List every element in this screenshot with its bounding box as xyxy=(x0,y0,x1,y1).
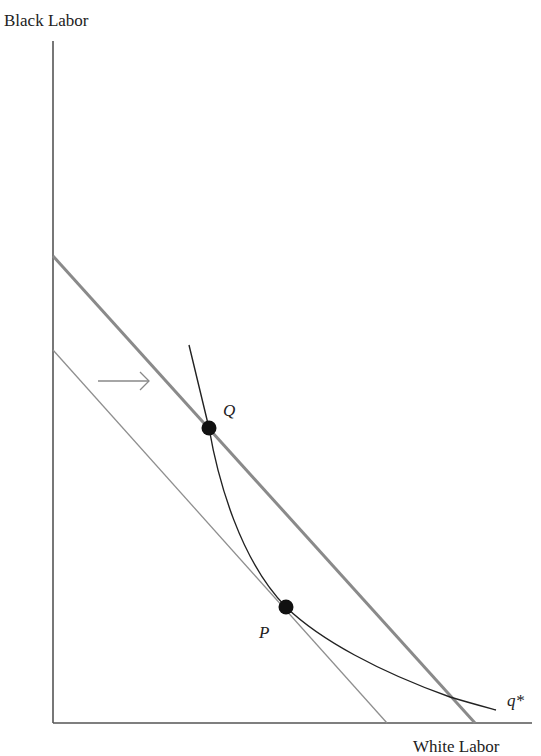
isoquant-curve xyxy=(189,345,496,710)
point-q xyxy=(202,421,217,436)
isoquant-label: q* xyxy=(507,691,525,710)
point-p-label: P xyxy=(258,623,269,642)
original-isocost-line xyxy=(53,350,387,723)
point-q-label: Q xyxy=(223,401,235,420)
y-axis-label: Black Labor xyxy=(4,11,89,30)
isoquant-diagram: Black Labor White Labor Q P q* xyxy=(0,0,541,756)
point-p xyxy=(279,600,294,615)
right-arrow-icon xyxy=(98,372,149,390)
shifted-isocost-line xyxy=(53,256,475,723)
x-axis-label: White Labor xyxy=(413,737,500,756)
